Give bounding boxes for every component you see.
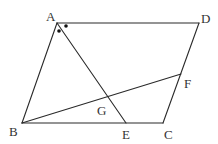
point-label-a: A xyxy=(46,9,56,24)
point-label-e: E xyxy=(122,127,130,142)
angle-mark-bae xyxy=(57,29,61,33)
point-label-f: F xyxy=(184,76,191,91)
segment-ba xyxy=(22,23,57,123)
segment-dc xyxy=(163,23,199,123)
segment-ae xyxy=(57,23,126,123)
angle-mark-ead xyxy=(64,24,68,28)
point-label-b: B xyxy=(9,124,18,139)
point-label-d: D xyxy=(201,11,210,26)
segments xyxy=(22,23,199,123)
geometry-diagram: ADBCEFG xyxy=(0,0,218,144)
point-label-c: C xyxy=(164,127,173,142)
point-label-g: G xyxy=(97,103,106,118)
